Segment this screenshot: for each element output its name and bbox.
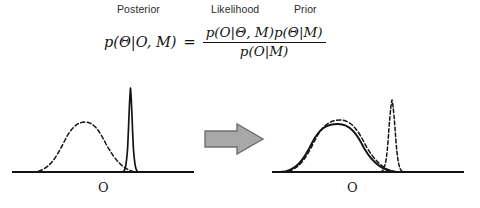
curve-prior-dashed: [32, 122, 158, 172]
label-prior: Prior: [294, 3, 317, 15]
plot-after: [268, 80, 468, 180]
formula-numerator: p(O|Θ, M)p(Θ|M): [203, 25, 326, 42]
label-posterior: Posterior: [117, 3, 160, 15]
transition-arrow-icon: [203, 122, 265, 156]
curve-posterior-solid: [280, 124, 418, 172]
formula-denominator: p(O|M): [237, 43, 292, 60]
axis-label-left: O: [98, 180, 109, 195]
formula-fraction: p(O|Θ, M)p(Θ|M) p(O|M): [203, 25, 326, 59]
plot-before: [8, 80, 198, 180]
label-likelihood: Likelihood: [211, 3, 259, 15]
curve-likelihood-solid: [122, 88, 139, 172]
formula-lhs: p(Θ|O, M): [104, 34, 176, 50]
arrow-shape: [205, 124, 263, 154]
axis-label-right: O: [347, 180, 358, 195]
bayes-theorem-figure: Posterior Likelihood Prior p(Θ|O, M) = p…: [0, 0, 480, 208]
curve-likelihood-spike-dashed: [380, 100, 404, 172]
bayes-formula: p(Θ|O, M) = p(O|Θ, M)p(Θ|M) p(O|M): [104, 25, 326, 59]
formula-equals-sign: =: [183, 34, 195, 50]
